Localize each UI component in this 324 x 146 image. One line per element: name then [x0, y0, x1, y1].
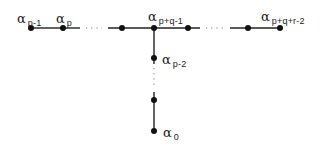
node-alpha-0: [151, 128, 157, 134]
label-alpha-p+q+r-2: αp+q+r-2: [261, 8, 305, 24]
label-alpha-p-2: αp-2: [162, 51, 186, 67]
tree-diagram: αp-1 αp αp+q-1 αp+q+r-2 αp-2 α0: [0, 0, 324, 146]
node-alpha-p-2: [151, 55, 157, 61]
alpha-symbol: α: [261, 9, 270, 24]
subscript: p-2: [173, 59, 187, 69]
subscript: p: [67, 18, 72, 28]
nodes: [28, 25, 283, 134]
label-alpha-p: αp: [56, 10, 72, 26]
subscript: p+q+r-2: [272, 16, 305, 26]
alpha-symbol: α: [148, 9, 157, 24]
node-left-of-junction: [119, 25, 125, 31]
alpha-symbol: α: [163, 125, 172, 140]
subscript: 0: [174, 132, 179, 142]
subscript: p-1: [28, 18, 42, 28]
label-alpha-0: α0: [163, 124, 179, 140]
label-alpha-p-1: αp-1: [17, 10, 41, 26]
node-before-end: [245, 25, 251, 31]
subscript: p+q-1: [159, 16, 183, 26]
node-above-zero: [151, 97, 157, 103]
label-alpha-p+q-1: αp+q-1: [148, 8, 183, 24]
node-alpha-p+q-1: [151, 25, 157, 31]
node-right-of-junction: [185, 25, 191, 31]
alpha-symbol: α: [17, 11, 26, 26]
alpha-symbol: α: [162, 52, 171, 67]
alpha-symbol: α: [56, 11, 65, 26]
